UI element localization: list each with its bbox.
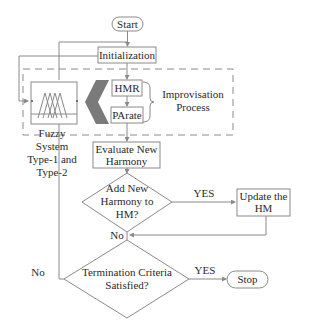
evaluate-node: Evaluate New Harmony	[93, 142, 160, 168]
add-yes-label: YES	[194, 187, 215, 199]
fuzzy-label-2: System	[36, 140, 69, 152]
fuzzy-system-box	[31, 82, 78, 124]
add-label-2: Harmony to	[101, 195, 154, 207]
edge-update-merge	[130, 216, 266, 235]
improvisation-label-1: Improvisation	[162, 88, 224, 100]
termination-yes-label: YES	[195, 264, 216, 276]
flowchart: Start Initialization HMR	[0, 0, 309, 330]
hmr-label: HMR	[114, 82, 140, 94]
add-label-1: Add New	[106, 182, 149, 194]
termination-no-label: No	[31, 266, 45, 278]
add-harmony-decision: Add New Harmony to HM?	[82, 173, 172, 232]
evaluate-label-2: Harmony	[106, 155, 148, 167]
stop-label: Stop	[237, 273, 258, 285]
add-no-label: No	[110, 229, 124, 241]
start-node: Start	[112, 17, 143, 31]
add-label-3: HM?	[116, 208, 139, 220]
update-label-1: Update the	[240, 190, 288, 202]
improvisation-label-2: Process	[176, 101, 210, 113]
termination-decision: Termination Criteria Satisfied?	[64, 240, 189, 318]
evaluate-label-1: Evaluate New	[96, 143, 158, 155]
parate-label: PArate	[112, 109, 142, 121]
chevron-arrow-icon	[85, 80, 109, 124]
hmr-node: HMR	[112, 80, 142, 96]
brace	[143, 82, 154, 122]
termination-label-2: Satisfied?	[105, 279, 148, 291]
initialization-label: Initialization	[99, 49, 156, 61]
stop-node: Stop	[227, 271, 268, 288]
update-hm-node: Update the HM	[237, 189, 290, 216]
parate-node: PArate	[111, 107, 143, 123]
fuzzy-label-1: Fuzzy	[39, 127, 66, 139]
termination-label-1: Termination Criteria	[82, 266, 172, 278]
start-label: Start	[117, 18, 138, 30]
fuzzy-label-3: Type-1 and	[27, 153, 77, 165]
update-label-2: HM	[255, 202, 273, 214]
fuzzy-label-4: Type-2	[37, 166, 68, 178]
initialization-node: Initialization	[98, 47, 156, 63]
